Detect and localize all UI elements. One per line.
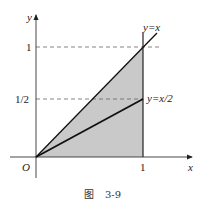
figure-3-9: y x O 1 1 1/2 y=x y=x/2 图 3-9 [0, 0, 207, 211]
x-axis-label: x [187, 161, 193, 173]
origin-label: O [22, 161, 30, 173]
y-tick-half: 1/2 [15, 93, 29, 105]
caption-number: 3-9 [105, 189, 121, 200]
curve-label-y-equals-half-x: y=x/2 [146, 92, 173, 104]
curve-label-y-equals-x: y=x [142, 21, 160, 33]
caption-prefix: 图 [84, 189, 94, 200]
x-tick-1: 1 [140, 161, 146, 173]
y-axis-label: y [26, 11, 32, 23]
y-tick-1: 1 [26, 41, 32, 53]
